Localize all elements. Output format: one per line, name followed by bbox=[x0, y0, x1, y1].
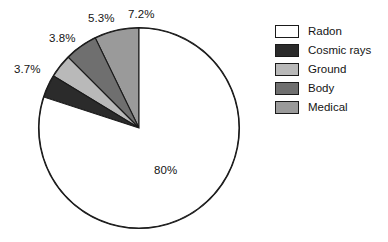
pie-chart-figure: 80% 3.7% 3.8% 5.3% 7.2% Radon Cosmic ray… bbox=[0, 0, 388, 242]
legend-label-body: Body bbox=[308, 83, 334, 95]
slice-label-radon: 80% bbox=[154, 165, 177, 177]
legend-item-radon[interactable]: Radon bbox=[275, 22, 385, 41]
legend-item-ground[interactable]: Ground bbox=[275, 60, 385, 79]
legend-item-cosmic-rays[interactable]: Cosmic rays bbox=[275, 41, 385, 60]
legend-swatch-body bbox=[275, 82, 299, 95]
legend-item-medical[interactable]: Medical bbox=[275, 98, 385, 117]
legend-swatch-medical bbox=[275, 101, 299, 114]
legend-label-ground: Ground bbox=[308, 64, 346, 76]
legend-swatch-ground bbox=[275, 63, 299, 76]
slice-label-cosmic-rays: 3.7% bbox=[14, 64, 41, 76]
legend-swatch-radon bbox=[275, 25, 299, 38]
legend-swatch-cosmic-rays bbox=[275, 44, 299, 57]
legend-label-radon: Radon bbox=[308, 26, 342, 38]
slice-label-ground: 3.8% bbox=[49, 33, 76, 45]
slice-label-body: 5.3% bbox=[88, 13, 115, 25]
pie-slices-group bbox=[39, 28, 239, 228]
slice-label-medical: 7.2% bbox=[128, 9, 155, 21]
legend-label-cosmic-rays: Cosmic rays bbox=[308, 45, 371, 57]
legend-item-body[interactable]: Body bbox=[275, 79, 385, 98]
legend-label-medical: Medical bbox=[308, 102, 348, 114]
legend: Radon Cosmic rays Ground Body Medical bbox=[275, 22, 385, 117]
